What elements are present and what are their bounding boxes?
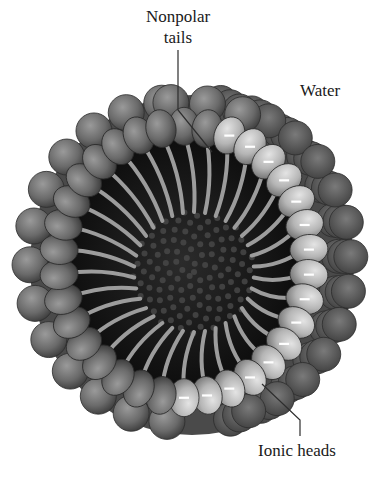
micelle-diagram <box>0 0 390 483</box>
